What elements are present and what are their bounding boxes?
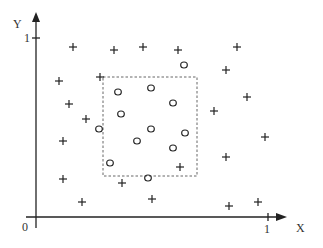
circle-marker-icon: [96, 126, 103, 132]
plus-marker-icon: [110, 46, 118, 54]
plus-marker-icon: [222, 153, 230, 161]
circle-marker-icon: [148, 126, 155, 132]
plus-marker-icon: [222, 66, 230, 74]
y-axis-arrow-icon: [32, 12, 40, 22]
plus-markers: [55, 43, 269, 210]
circle-marker-icon: [170, 100, 177, 106]
plus-marker-icon: [55, 77, 63, 85]
scatter-diagram: [0, 0, 323, 248]
origin-label: 0: [22, 221, 28, 233]
y-axis-label: Y: [13, 18, 22, 30]
plus-marker-icon: [78, 198, 86, 206]
plus-marker-icon: [254, 198, 262, 206]
plus-marker-icon: [65, 100, 73, 108]
circle-marker-icon: [170, 145, 177, 151]
circle-marker-icon: [145, 175, 152, 181]
circle-markers: [96, 62, 189, 181]
x-axis-label: X: [296, 222, 305, 234]
circle-marker-icon: [115, 89, 122, 95]
circle-marker-icon: [107, 160, 114, 166]
plus-marker-icon: [174, 46, 182, 54]
circle-marker-icon: [118, 111, 125, 117]
plus-marker-icon: [243, 93, 251, 101]
x-axis-arrow-icon: [276, 213, 287, 221]
plus-marker-icon: [225, 202, 233, 210]
plus-marker-icon: [176, 163, 184, 171]
circle-marker-icon: [182, 130, 189, 136]
plus-marker-icon: [148, 195, 156, 203]
plus-marker-icon: [118, 179, 126, 187]
plus-marker-icon: [233, 43, 241, 51]
axes: [26, 12, 287, 228]
plus-marker-icon: [261, 133, 269, 141]
circle-marker-icon: [134, 138, 141, 144]
circle-marker-icon: [148, 85, 155, 91]
plus-marker-icon: [59, 175, 67, 183]
circle-marker-icon: [181, 62, 188, 68]
plus-marker-icon: [82, 115, 90, 123]
y-tick-label: 1: [24, 32, 30, 44]
plus-marker-icon: [139, 43, 147, 51]
plus-marker-icon: [69, 43, 77, 51]
x-tick-label: 1: [264, 223, 270, 235]
plus-marker-icon: [59, 137, 67, 145]
plus-marker-icon: [210, 107, 218, 115]
